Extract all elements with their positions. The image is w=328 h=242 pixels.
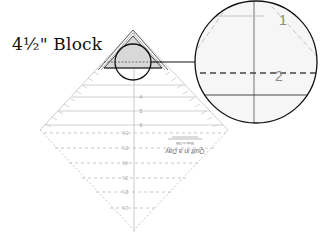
ruler-label-6: 6 xyxy=(140,122,143,128)
ruler-dash-label-6: 1½ xyxy=(122,205,129,211)
ruler-diagram: 4 5 6 5½ 5½ 4½ 3½ 2½ 1½ Quilt in a Day M… xyxy=(0,0,328,242)
ruler-dash-label-1: 5½ xyxy=(122,130,129,136)
ruler-dash-label-3: 4½ xyxy=(122,160,129,166)
magnifier: 1 2 xyxy=(188,0,322,130)
ruler-label-4: 4 xyxy=(140,94,143,100)
magnifier-label-1: 1 xyxy=(279,12,287,28)
ruler-dash-label-2: 5½ xyxy=(122,145,129,151)
brand-text: Quilt in a Day xyxy=(165,147,205,155)
ruler-brand: Quilt in a Day Made in USA xyxy=(165,137,205,155)
triangle-template xyxy=(98,30,168,70)
fine-print: Made in USA xyxy=(176,141,194,145)
ruler-label-5: 5 xyxy=(140,108,143,114)
ruler-dash-label-4: 3½ xyxy=(122,175,129,181)
ruler-dashed-lines xyxy=(44,133,226,208)
magnifier-label-2: 2 xyxy=(275,68,283,84)
ruler-dash-label-5: 2½ xyxy=(122,189,129,195)
